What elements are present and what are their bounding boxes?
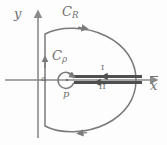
x-axis-label-text: x [150,78,157,93]
outer-arc-bottom-arrow [79,133,87,134]
outer-contour-label-base: C [62,4,72,19]
x-axis-label: x [150,79,157,92]
pole-p-label: p [63,89,69,99]
inner-contour-label-sub: ρ [62,54,67,64]
pole-point [66,79,68,81]
branch-lower-label: II [99,83,106,91]
contour-figure: y x CR Cρ a p I II [0,0,167,145]
inner-contour-label-base: C [52,48,62,63]
point-a-label: a [41,75,46,83]
outer-contour-label-sub: R [72,10,78,20]
inner-contour-label: Cρ [52,49,67,63]
outer-contour-label: CR [62,5,78,19]
contour-diagram-svg [0,0,167,145]
y-axis-label: y [14,7,21,20]
branch-upper-label: I [101,64,105,72]
